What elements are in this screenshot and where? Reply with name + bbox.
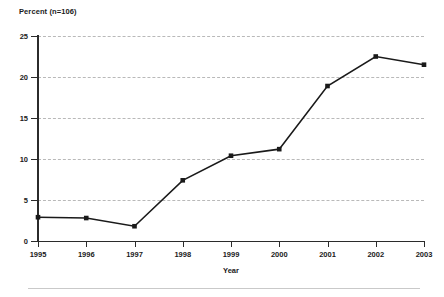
data-point-1996 [84,216,89,221]
data-point-1999 [229,153,234,158]
x-axis-title: Year [38,266,424,275]
x-tick-label-2001: 2001 [304,250,352,259]
chart-figure: Percent (n=106) 0510152025 Year 19951996… [0,0,444,297]
x-tick-mark-1996 [86,241,87,247]
series-line [38,57,424,227]
x-tick-mark-2000 [279,241,280,247]
x-tick-label-2000: 2000 [255,250,303,259]
x-tick-mark-1998 [183,241,184,247]
x-tick-label-2002: 2002 [352,250,400,259]
x-tick-label-1997: 1997 [111,250,159,259]
x-tick-label-1995: 1995 [14,250,62,259]
data-point-2002 [373,54,378,59]
series-marker-group [36,54,427,228]
x-tick-mark-2003 [424,241,425,247]
y-tick-mark-20 [31,77,38,78]
footer-divider [28,288,420,289]
x-tick-label-1996: 1996 [62,250,110,259]
y-tick-mark-25 [31,36,38,37]
data-point-1995 [36,215,41,220]
x-tick-mark-1999 [231,241,232,247]
x-tick-label-1999: 1999 [207,250,255,259]
x-tick-mark-2001 [328,241,329,247]
data-point-1998 [180,178,185,183]
y-tick-mark-10 [31,159,38,160]
x-tick-label-2003: 2003 [400,250,444,259]
data-point-2001 [325,84,330,89]
data-point-1997 [132,224,137,229]
x-tick-mark-1997 [135,241,136,247]
x-tick-mark-1995 [38,241,39,247]
y-tick-mark-15 [31,118,38,119]
x-tick-label-1998: 1998 [159,250,207,259]
data-point-2003 [422,62,427,67]
y-tick-mark-0 [31,241,38,242]
x-tick-mark-2002 [376,241,377,247]
y-tick-mark-5 [31,200,38,201]
data-point-2000 [277,147,282,152]
